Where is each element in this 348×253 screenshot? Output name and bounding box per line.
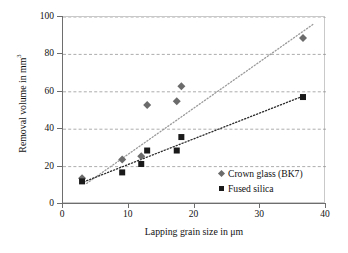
y-axis-tick-label: 20: [45, 161, 55, 171]
data-point-diamond: [299, 34, 307, 42]
y-axis-tick-label: 0: [49, 198, 54, 208]
x-axis-tick: [325, 203, 326, 208]
data-point-diamond: [173, 97, 181, 105]
x-axis-tick: [128, 203, 129, 208]
legend-item-label: Crown glass (BK7): [228, 168, 303, 179]
legend-item-label: Fused silica: [228, 183, 274, 194]
y-axis-tick: [57, 16, 62, 17]
x-axis-tick: [194, 203, 195, 208]
x-axis-tick: [259, 203, 260, 208]
trendlines: [81, 24, 314, 184]
y-axis-tick: [57, 166, 62, 167]
data-point-square: [79, 178, 85, 184]
data-point-diamond: [118, 155, 126, 163]
legend-item-fused-silica[interactable]: Fused silica: [214, 181, 326, 196]
data-point-square: [138, 161, 144, 167]
data-point-square: [300, 94, 306, 100]
diamond-glyph: [217, 170, 224, 177]
x-axis-tick-label: 30: [247, 209, 271, 219]
x-axis-tick: [62, 203, 63, 208]
y-axis-tick: [57, 53, 62, 54]
data-point-square: [174, 148, 180, 154]
legend-item-crown-glass[interactable]: Crown glass (BK7): [214, 166, 326, 181]
x-axis-tick-label: 40: [313, 209, 337, 219]
data-point-square: [119, 169, 125, 175]
x-axis-title: Lapping grain size in μm: [62, 226, 326, 237]
x-axis-tick-label: 0: [50, 209, 74, 219]
data-point-diamond: [177, 82, 185, 90]
y-axis-tick: [57, 128, 62, 129]
square-marker-icon: [214, 186, 228, 191]
diamond-marker-icon: [214, 171, 228, 176]
y-axis-line: [62, 16, 63, 204]
y-axis-title: Removal volume in mm3: [17, 14, 28, 194]
y-axis-tick: [57, 91, 62, 92]
scatter-chart-figure: 020406080100 010203040 Removal volume in…: [0, 0, 348, 253]
square-glyph: [219, 186, 224, 191]
y-axis-title-text: Removal volume in mm: [17, 58, 28, 153]
gridlines: [63, 17, 326, 167]
y-axis-tick-label: 80: [45, 48, 55, 58]
y-axis-tick-label: 100: [40, 11, 54, 21]
data-point-square: [144, 148, 150, 154]
x-axis-tick-label: 20: [182, 209, 206, 219]
data-point-square: [178, 134, 184, 140]
y-axis-tick-label: 40: [45, 123, 55, 133]
x-axis-tick-label: 10: [116, 209, 140, 219]
chart-legend: Crown glass (BK7)Fused silica: [214, 166, 326, 196]
y-axis-tick-label: 60: [45, 86, 55, 96]
y-axis-title-exponent: 3: [15, 54, 22, 57]
data-point-diamond: [143, 101, 151, 109]
